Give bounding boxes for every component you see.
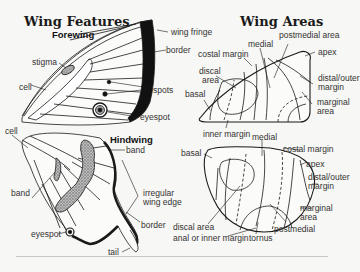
label-marginal-hindwing-line2: area bbox=[300, 213, 317, 222]
bottom-divider bbox=[16, 256, 328, 257]
label-eyespot-forewing: eyespot bbox=[140, 113, 170, 122]
label-medial: medial bbox=[248, 40, 273, 49]
label-inner-margin: inner margin bbox=[203, 130, 250, 139]
label-apex-hindwing: apex bbox=[306, 160, 324, 169]
wing-areas-title: Wing Areas bbox=[240, 14, 323, 29]
label-costal-margin: costal margin bbox=[198, 50, 249, 59]
label-cell-forewing: cell bbox=[19, 83, 32, 92]
label-cell-hindwing: cell bbox=[5, 127, 18, 136]
label-postmedial-area: postmedial area bbox=[279, 31, 339, 40]
label-basal-hindwing: basal bbox=[181, 149, 201, 158]
label-band-right: band bbox=[126, 146, 145, 155]
label-spots: spots bbox=[153, 86, 173, 95]
forewing-title: Forewing bbox=[52, 29, 94, 40]
label-eyespot-hindwing: eyespot bbox=[31, 230, 61, 239]
label-anal-inner-margin: anal or inner margin bbox=[173, 234, 249, 243]
label-wing-fringe: wing fringe bbox=[171, 28, 212, 37]
label-distal-hindwing-line2: margin bbox=[308, 182, 334, 191]
label-border: border bbox=[166, 46, 191, 55]
label-postmedial-hindwing: postmedial bbox=[274, 225, 315, 234]
label-medial-hindwing: medial bbox=[252, 133, 277, 142]
label-border-hindwing: border bbox=[141, 221, 166, 230]
wing-features-title: Wing Features bbox=[24, 14, 130, 29]
label-band-left: band bbox=[11, 189, 30, 198]
label-stigma: stigma bbox=[32, 58, 57, 67]
label-distal-line2: margin bbox=[318, 83, 344, 92]
label-costal-margin-hindwing: costal margin bbox=[283, 145, 334, 154]
label-tornus: tornus bbox=[249, 234, 273, 243]
label-discal-line2: area bbox=[202, 76, 219, 85]
label-basal: basal bbox=[185, 90, 205, 99]
label-marginal-line2: area bbox=[317, 107, 334, 116]
label-discal-area-hindwing: discal area bbox=[173, 223, 214, 232]
hindwing-title: Hindwing bbox=[110, 134, 153, 145]
areas-hindwing-illustration bbox=[204, 147, 314, 232]
areas-forewing-illustration bbox=[199, 51, 310, 122]
label-apex: apex bbox=[318, 48, 336, 57]
label-irregular-line2: wing edge bbox=[143, 198, 182, 207]
